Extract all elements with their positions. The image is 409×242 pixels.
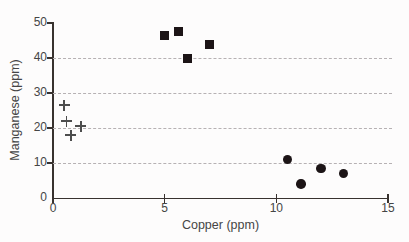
data-point-circle — [296, 179, 306, 189]
x-tick-label: 15 — [373, 201, 403, 215]
y-tick-label: 10 — [11, 155, 47, 169]
y-tick — [47, 22, 53, 24]
y-tick-label: 30 — [11, 85, 47, 99]
gridline-y-20 — [53, 128, 392, 129]
x-tick-label: 10 — [261, 201, 291, 215]
gridline-y-10 — [53, 163, 392, 164]
data-point-circle — [316, 164, 326, 174]
x-tick-label: 0 — [38, 201, 68, 215]
data-point-circle — [339, 169, 349, 179]
plot-area — [53, 23, 388, 198]
y-tick — [47, 162, 53, 164]
x-axis-title: Copper (ppm) — [150, 218, 291, 233]
y-tick — [47, 127, 53, 129]
y-tick — [47, 92, 53, 94]
data-point-square — [183, 54, 192, 63]
data-point-plus — [75, 121, 86, 132]
data-point-square — [160, 31, 169, 40]
data-point-square — [174, 27, 183, 36]
scatter-plot-figure: Manganese (ppm) Copper (ppm) 01020304050… — [0, 0, 409, 242]
y-tick-label: 20 — [11, 120, 47, 134]
data-point-plus — [59, 100, 70, 111]
y-tick — [47, 57, 53, 59]
x-tick-label: 5 — [150, 201, 180, 215]
gridline-y-30 — [53, 93, 392, 94]
y-tick-label: 40 — [11, 50, 47, 64]
y-axis-title: Manganese (ppm) — [8, 59, 23, 160]
data-point-plus — [61, 116, 72, 127]
gridline-y-40 — [53, 58, 392, 59]
data-point-square — [205, 40, 214, 49]
y-tick-label: 50 — [11, 15, 47, 29]
